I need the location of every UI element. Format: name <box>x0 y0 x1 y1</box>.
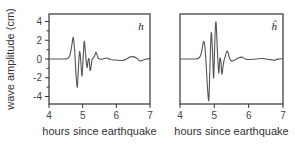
figure: wave amplitude (cm) 420-2-4 4567 h hours… <box>0 0 295 146</box>
x-axis: 4567 <box>46 104 153 121</box>
panel-label-h-hat: ĥ <box>271 20 277 32</box>
x-tick-label: 5 <box>80 110 86 121</box>
x-tick-label: 7 <box>280 110 286 121</box>
x-tick-label: 4 <box>46 110 52 121</box>
y-axis: 420-2-4 <box>33 16 49 102</box>
series-line-h <box>49 37 150 87</box>
x-axis-label: hours since earthquake <box>42 125 156 137</box>
x-tick-label: 6 <box>114 110 120 121</box>
y-tick-label: 4 <box>36 16 42 27</box>
panel-h-hat: 4567 ĥ hours since earthquake <box>174 14 288 137</box>
y-tick-label: 2 <box>36 35 42 46</box>
x-tick-label: 5 <box>212 110 218 121</box>
series-line-h-hat <box>180 22 283 101</box>
y-tick-label: -4 <box>33 91 42 102</box>
x-axis-label: hours since earthquake <box>174 125 288 137</box>
y-tick-label: -2 <box>33 72 42 83</box>
y-tick-label: 0 <box>36 54 42 65</box>
panel-h: 420-2-4 4567 h hours since earthquake <box>33 14 157 137</box>
x-axis: 4567 <box>177 104 286 121</box>
x-tick-label: 7 <box>147 110 153 121</box>
panel-label-h: h <box>138 20 144 32</box>
y-axis-label: wave amplitude (cm) <box>4 8 16 110</box>
x-tick-label: 6 <box>246 110 252 121</box>
x-tick-label: 4 <box>177 110 183 121</box>
